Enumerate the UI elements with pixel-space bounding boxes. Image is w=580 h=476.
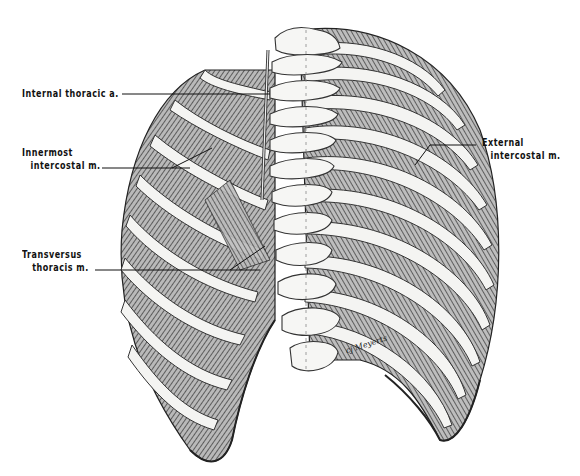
- left-rib-cage: [121, 50, 275, 461]
- label-line: External: [482, 136, 561, 149]
- label-line: intercostal m.: [22, 159, 101, 172]
- label-innermost-intercostal-muscle: Innermost intercostal m.: [22, 146, 101, 172]
- label-line: Innermost: [22, 146, 101, 159]
- label-line: Internal thoracic a.: [22, 87, 119, 100]
- anatomy-figure: Internal thoracic a. Innermost intercost…: [0, 0, 580, 476]
- label-line: Transversus: [22, 248, 89, 261]
- thoracic-cage-illustration: [0, 0, 580, 476]
- label-line: thoracis m.: [22, 261, 89, 274]
- label-external-intercostal-muscle: External intercostal m.: [482, 136, 561, 162]
- label-transversus-thoracis-muscle: Transversus thoracis m.: [22, 248, 89, 274]
- label-line: intercostal m.: [482, 149, 561, 162]
- label-internal-thoracic-artery: Internal thoracic a.: [22, 87, 119, 100]
